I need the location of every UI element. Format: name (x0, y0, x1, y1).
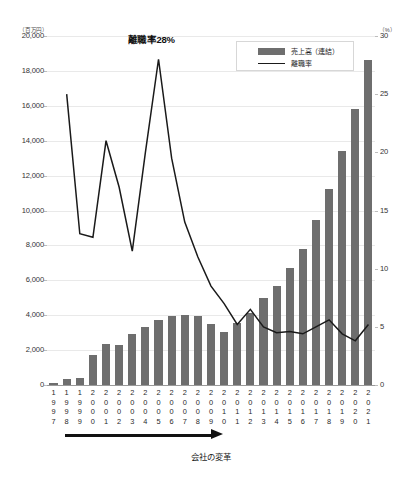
left-axis-tick-label: 18,000 (22, 66, 44, 75)
left-axis-tick-label: 12,000 (22, 171, 44, 180)
x-axis-label: 2006 (165, 388, 178, 426)
legend-label-sales: 売上高（連結） (291, 46, 339, 56)
retention-and-sales-chart: （百万円） （%） 02,0004,0006,0008,00010,00012,… (0, 0, 412, 482)
left-axis-tick-label: 2,000 (26, 345, 44, 354)
x-axis-label: 2012 (244, 388, 257, 426)
x-axis-label: 2013 (257, 388, 270, 426)
x-axis-label: 1997 (47, 388, 60, 426)
bar-swatch-icon (258, 48, 285, 55)
legend-label-turnover: 離職率 (291, 58, 311, 68)
x-axis-label: 2004 (139, 388, 152, 426)
x-axis-label: 2008 (191, 388, 204, 426)
x-axis-label: 2021 (362, 388, 375, 426)
tick-mark-left (44, 385, 47, 386)
legend-item-sales: 売上高（連結） (241, 45, 349, 57)
left-axis-tick-label: 20,000 (22, 31, 44, 40)
right-axis-tick-label: 15 (380, 206, 388, 215)
right-axis-tick-label: 0 (380, 380, 384, 389)
transformation-arrow (47, 430, 375, 444)
right-axis-tick-label: 10 (380, 264, 388, 273)
x-axis-label: 2000 (86, 388, 99, 426)
right-axis-tick-label: 25 (380, 89, 388, 98)
x-axis-label: 2011 (231, 388, 244, 426)
x-axis-label: 2015 (283, 388, 296, 426)
x-axis-label: 2007 (178, 388, 191, 426)
right-axis-tick-label: 5 (380, 322, 384, 331)
line-series-turnover-rate (47, 36, 375, 385)
x-axis-label: 2010 (218, 388, 231, 426)
arrow-shaft (65, 434, 213, 437)
left-axis-tick-label: 16,000 (22, 101, 44, 110)
x-axis-label: 2003 (126, 388, 139, 426)
left-axis-tick-label: 10,000 (22, 206, 44, 215)
x-axis-label: 2017 (309, 388, 322, 426)
x-axis-label: 1999 (73, 388, 86, 426)
left-axis-tick-label: 0 (40, 380, 44, 389)
left-axis-tick-label: 6,000 (26, 275, 44, 284)
x-axis-label: 1998 (60, 388, 73, 426)
x-axis-label: 2014 (270, 388, 283, 426)
x-axis-label: 2001 (99, 388, 112, 426)
tick-mark-right (375, 211, 378, 212)
left-axis-tick-label: 8,000 (26, 240, 44, 249)
tick-mark-right (375, 36, 378, 37)
x-axis-label: 2002 (113, 388, 126, 426)
legend: 売上高（連結） 離職率 (236, 41, 354, 71)
x-axis-label: 2020 (349, 388, 362, 426)
plot-area: 02,0004,0006,0008,00010,00012,00014,0001… (47, 36, 375, 385)
x-axis-label: 2016 (296, 388, 309, 426)
x-axis-label: 2018 (323, 388, 336, 426)
legend-item-turnover: 離職率 (241, 57, 349, 69)
axis-baseline (47, 385, 375, 386)
x-axis-label: 2009 (204, 388, 217, 426)
annotation-peak-turnover: 離職率28% (128, 32, 175, 46)
tick-mark-right (375, 94, 378, 95)
arrow-head-icon (211, 429, 223, 439)
tick-mark-right (375, 327, 378, 328)
right-axis-tick-label: 20 (380, 147, 388, 156)
right-axis-tick-label: 30 (380, 31, 388, 40)
left-axis-tick-label: 4,000 (26, 310, 44, 319)
x-axis-label: 2005 (152, 388, 165, 426)
x-axis-label: 2019 (336, 388, 349, 426)
tick-mark-right (375, 152, 378, 153)
x-axis-title: 会社の変革 (47, 450, 375, 462)
tick-mark-right (375, 269, 378, 270)
tick-mark-right (375, 385, 378, 386)
left-axis-tick-label: 14,000 (22, 136, 44, 145)
line-swatch-icon (258, 63, 285, 64)
